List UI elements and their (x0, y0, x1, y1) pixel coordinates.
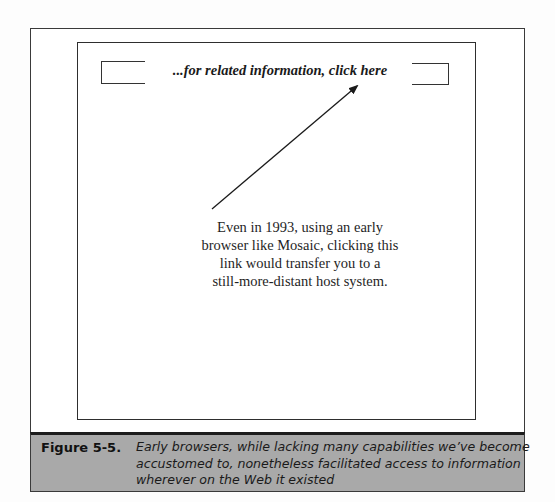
figure-caption: Figure 5-5. Early browsers, while lackin… (30, 432, 525, 492)
left-bracket-shape (101, 61, 145, 84)
figure-caption-text: Early browsers, while lacking many capab… (136, 439, 516, 489)
figure-number-label: Figure 5-5. (41, 440, 121, 455)
annotation-text: Even in 1993, using an early browser lik… (180, 218, 420, 290)
annotation-line: still-more-distant host system. (180, 272, 420, 290)
caption-line: accustomed to, nonetheless facilitated a… (136, 456, 516, 473)
caption-line: wherever on the Web it existed (136, 472, 516, 489)
hyperlink-text[interactable]: ...for related information, click here (160, 62, 400, 79)
annotation-line: link would transfer you to a (180, 254, 420, 272)
annotation-line: Even in 1993, using an early (180, 218, 420, 236)
annotation-line: browser like Mosaic, clicking this (180, 236, 420, 254)
right-bracket-shape (412, 63, 449, 85)
caption-line: Early browsers, while lacking many capab… (136, 439, 516, 456)
